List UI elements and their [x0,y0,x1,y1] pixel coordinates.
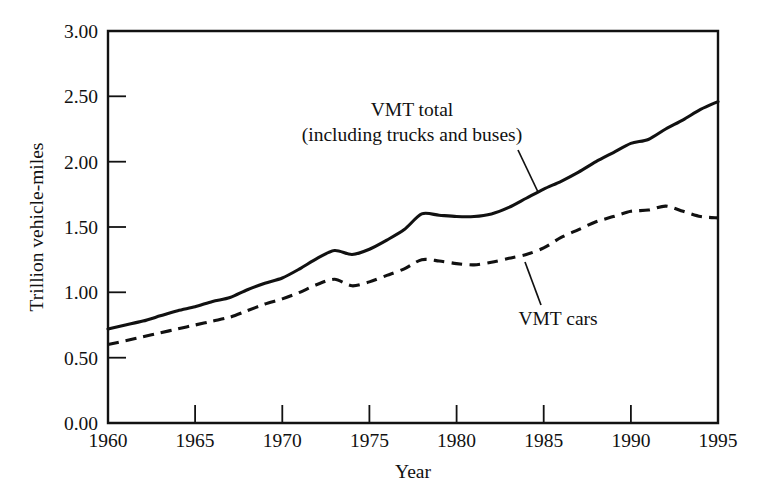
chart-canvas: 0.00 0.50 1.00 1.50 2.00 2.50 3.00 1960 … [0,0,769,494]
x-tick-label-1: 1965 [176,430,215,451]
annotation-vmt-total-line2: (including trucks and buses) [302,124,522,146]
y-tick-label-6: 3.00 [64,21,98,42]
y-tick-label-4: 2.00 [64,152,98,173]
y-axis-title: Trillion vehicle-miles [26,143,47,312]
x-tick-label-7: 1995 [699,430,738,451]
x-tick-label-3: 1975 [350,430,389,451]
x-tick-label-0: 1960 [89,430,128,451]
x-tick-label-2: 1970 [263,430,302,451]
y-tick-label-3: 1.50 [64,217,98,238]
plot-frame [108,31,718,423]
x-tick-label-5: 1985 [524,430,563,451]
x-tick-marks [195,405,631,423]
series-line-vmt-cars [108,206,718,345]
leader-line-vmt-total [518,150,538,192]
x-axis-title: Year [395,461,431,482]
y-tick-label-1: 0.50 [64,348,98,369]
x-tick-label-4: 1980 [437,430,476,451]
chart-figure: 0.00 0.50 1.00 1.50 2.00 2.50 3.00 1960 … [0,0,769,494]
y-tick-label-5: 2.50 [64,86,98,107]
y-tick-marks [108,96,126,357]
annotation-vmt-total-line1: VMT total [371,99,454,120]
x-tick-label-6: 1990 [611,430,650,451]
annotation-vmt-cars: VMT cars [518,308,597,329]
leader-line-vmt-cars [525,262,541,305]
y-tick-label-2: 1.00 [64,282,98,303]
